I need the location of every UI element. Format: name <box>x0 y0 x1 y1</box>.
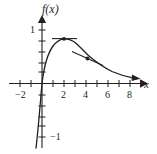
x-tick-label-8: 8 <box>127 90 132 100</box>
function-graph-figure: f(x) x 1 −1 −2 2 4 6 8 <box>0 0 157 154</box>
x-tick-label-minus-2: −2 <box>15 90 26 100</box>
x-tick-label-4: 4 <box>83 90 88 100</box>
curve-end-arrowhead <box>132 75 141 81</box>
x-axis-label: x <box>144 79 149 90</box>
graph-canvas <box>0 0 157 154</box>
y-axis-arrowhead <box>38 15 46 23</box>
x-tick-label-2: 2 <box>61 90 66 100</box>
y-tick-label-minus-1: −1 <box>50 132 61 142</box>
point-marker-maximum <box>62 37 66 41</box>
y-tick-label-1: 1 <box>30 25 35 35</box>
y-axis-label: f(x) <box>42 3 59 15</box>
point-marker-x4 <box>86 57 90 61</box>
x-tick-label-6: 6 <box>105 90 110 100</box>
